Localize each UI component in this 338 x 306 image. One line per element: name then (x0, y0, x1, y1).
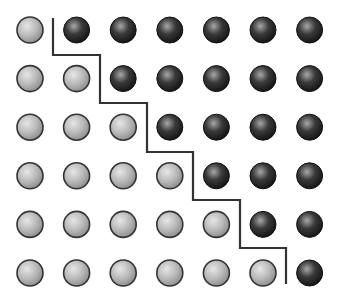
light-sphere-icon (110, 163, 136, 189)
light-sphere-icon (17, 163, 43, 189)
dark-sphere-icon (297, 66, 323, 92)
light-sphere-icon (110, 114, 136, 140)
light-sphere-icon (157, 163, 183, 189)
dark-sphere-icon (250, 114, 276, 140)
light-sphere-icon (64, 260, 90, 286)
dark-sphere-icon (297, 17, 323, 43)
light-sphere-icon (64, 163, 90, 189)
light-sphere-icon (17, 114, 43, 140)
light-sphere-icon (17, 211, 43, 237)
light-sphere-icon (64, 66, 90, 92)
dark-sphere-icon (157, 114, 183, 140)
light-sphere-icon (17, 17, 43, 43)
light-sphere-icon (157, 260, 183, 286)
dark-sphere-icon (157, 66, 183, 92)
dark-sphere-icon (250, 66, 276, 92)
dark-sphere-icon (250, 17, 276, 43)
light-sphere-icon (157, 211, 183, 237)
light-sphere-icon (203, 260, 229, 286)
dark-sphere-icon (203, 17, 229, 43)
dark-sphere-icon (297, 211, 323, 237)
light-sphere-icon (110, 211, 136, 237)
dark-sphere-icon (297, 114, 323, 140)
dark-sphere-icon (203, 163, 229, 189)
dark-sphere-icon (203, 114, 229, 140)
staircase-boundary-line (53, 18, 286, 284)
dark-sphere-icon (157, 17, 183, 43)
dark-sphere-icon (203, 66, 229, 92)
light-sphere-icon (64, 211, 90, 237)
light-sphere-icon (17, 66, 43, 92)
light-sphere-icon (110, 260, 136, 286)
light-sphere-icon (64, 114, 90, 140)
dark-sphere-icon (250, 163, 276, 189)
dark-sphere-icon (64, 17, 90, 43)
dark-sphere-icon (297, 163, 323, 189)
dark-sphere-icon (110, 66, 136, 92)
light-sphere-icon (203, 211, 229, 237)
dark-sphere-icon (250, 211, 276, 237)
light-sphere-icon (17, 260, 43, 286)
sphere-grid-diagram (0, 0, 338, 306)
dark-sphere-icon (297, 260, 323, 286)
light-sphere-icon (250, 260, 276, 286)
dark-sphere-icon (110, 17, 136, 43)
